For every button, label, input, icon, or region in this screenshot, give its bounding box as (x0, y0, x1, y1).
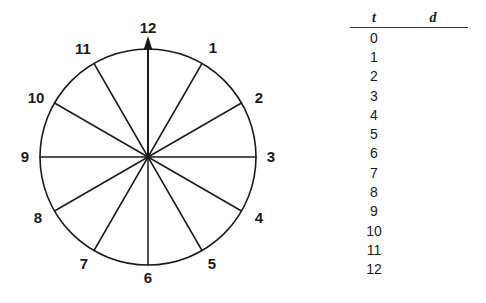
spoke-2 (148, 103, 242, 157)
clock-label-7: 7 (80, 255, 88, 272)
clock-label-6: 6 (144, 269, 152, 286)
cell-d[interactable] (398, 166, 468, 180)
clock-label-11: 11 (75, 40, 91, 57)
clock-label-9: 9 (21, 148, 29, 165)
cell-t: 11 (350, 243, 398, 257)
clock-label-4: 4 (255, 209, 264, 226)
cell-d[interactable] (398, 69, 468, 83)
cell-t: 8 (350, 185, 398, 199)
clock-label-12: 12 (140, 19, 157, 36)
cell-t: 6 (350, 146, 398, 160)
cell-d[interactable] (398, 204, 468, 218)
table-row: 5 (350, 124, 468, 143)
cell-t: 2 (350, 69, 398, 83)
cell-t: 4 (350, 108, 398, 122)
clock-label-1: 1 (209, 39, 217, 56)
table-header-row: t d (350, 10, 468, 28)
table-row: 6 (350, 144, 468, 163)
spoke-10 (55, 103, 149, 157)
cell-t: 7 (350, 166, 398, 180)
spoke-7 (94, 157, 148, 251)
table-body: 0 1 2 3 4 5 6 7 (350, 28, 468, 279)
spoke-11 (94, 64, 148, 158)
twelve-arrow (144, 36, 153, 157)
table-row: 2 (350, 67, 468, 86)
cell-t: 10 (350, 224, 398, 238)
column-header-d: d (398, 10, 468, 26)
table-row: 0 (350, 28, 468, 47)
cell-d[interactable] (398, 50, 468, 64)
cell-d[interactable] (398, 127, 468, 141)
spoke-5 (148, 157, 202, 251)
clock-label-10: 10 (28, 89, 45, 106)
data-table: t d 0 1 2 3 4 5 6 (350, 10, 468, 279)
spoke-4 (148, 157, 242, 211)
clock-label-5: 5 (208, 255, 216, 272)
table-row: 8 (350, 182, 468, 201)
clock-label-3: 3 (267, 148, 275, 165)
cell-t: 5 (350, 127, 398, 141)
table-row: 3 (350, 86, 468, 105)
clock-svg: 12 1 2 3 4 5 6 7 8 9 10 11 (0, 0, 300, 303)
cell-d[interactable] (398, 146, 468, 160)
cell-d[interactable] (398, 185, 468, 199)
cell-d[interactable] (398, 243, 468, 257)
table-row: 12 (350, 260, 468, 279)
cell-t: 1 (350, 50, 398, 64)
cell-t: 0 (350, 31, 398, 45)
clock-label-2: 2 (255, 89, 263, 106)
table-row: 11 (350, 240, 468, 259)
column-header-t: t (350, 10, 398, 26)
table-row: 1 (350, 47, 468, 66)
table-row: 9 (350, 202, 468, 221)
table-row: 10 (350, 221, 468, 240)
cell-t: 12 (350, 262, 398, 276)
cell-t: 9 (350, 204, 398, 218)
cell-t: 3 (350, 89, 398, 103)
cell-d[interactable] (398, 262, 468, 276)
cell-d[interactable] (398, 224, 468, 238)
table-row: 7 (350, 163, 468, 182)
arrow-head-icon (144, 36, 153, 50)
clock-diagram: 12 1 2 3 4 5 6 7 8 9 10 11 (0, 0, 300, 303)
clock-label-8: 8 (34, 209, 42, 226)
cell-d[interactable] (398, 89, 468, 103)
cell-d[interactable] (398, 31, 468, 45)
spoke-1 (148, 64, 202, 158)
table-row: 4 (350, 105, 468, 124)
cell-d[interactable] (398, 108, 468, 122)
spoke-8 (55, 157, 149, 211)
